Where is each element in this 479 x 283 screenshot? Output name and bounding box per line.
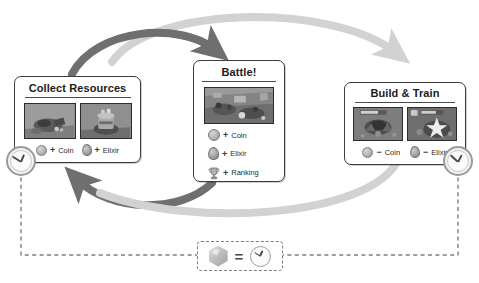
legend-label: Elixir [230, 149, 246, 158]
gem-icon [209, 246, 228, 267]
panel-title: Build & Train [345, 83, 465, 99]
title-divider [25, 97, 131, 98]
legend-label: Coin [231, 131, 246, 140]
building-construction-thumbnail [353, 107, 403, 141]
diagram-canvas: Collect Resources [0, 0, 479, 283]
legend-item: + Elixir [208, 147, 284, 160]
dashed-timer-path-left [21, 170, 198, 255]
timer-clock-left [6, 146, 36, 176]
arrow-collect-to-build [112, 17, 395, 62]
sign: + [223, 168, 228, 178]
legend-item: + Coin [208, 129, 284, 141]
legend-item: − Elixir [410, 146, 448, 158]
elixir-collector-thumbnail [80, 103, 132, 139]
sign: + [50, 145, 55, 155]
legend-label: Coin [58, 146, 73, 155]
elixir-icon [207, 147, 220, 161]
battle-scene-thumbnail [204, 87, 274, 124]
thumbnail-row [194, 87, 284, 124]
legend-item: − Coin [362, 146, 400, 158]
panel-title: Collect Resources [15, 77, 140, 94]
title-divider [355, 102, 455, 103]
clock-icon [250, 246, 271, 267]
sign: + [222, 149, 227, 159]
sign: + [223, 130, 228, 140]
troop-training-thumbnail [407, 107, 457, 141]
timer-clock-right [443, 146, 473, 176]
thumbnail-row [345, 107, 465, 141]
legend-gem-equals-time: = [197, 241, 283, 271]
dashed-timer-path-right [282, 170, 458, 255]
title-divider [202, 81, 276, 82]
trophy-icon [208, 166, 220, 179]
elixir-icon [409, 146, 421, 159]
elixir-icon [81, 144, 93, 157]
gold-mine-thumbnail [24, 103, 76, 139]
thumbnail-row [15, 103, 140, 139]
coin-icon [36, 145, 47, 156]
legend-label: Ranking [231, 168, 259, 177]
legend-label: Coin [385, 148, 400, 157]
legend-label: Elixir [103, 146, 119, 155]
panel-title: Battle! [194, 61, 284, 78]
panel-battle[interactable]: Battle! [193, 60, 285, 182]
panel-collect-resources[interactable]: Collect Resources [14, 76, 141, 163]
coin-icon [208, 129, 220, 141]
equals-operator: = [235, 249, 244, 264]
coin-icon [362, 147, 373, 158]
sign: − [376, 147, 381, 157]
arrow-battle-to-collect [78, 180, 212, 205]
legend-item: + Elixir [82, 144, 120, 156]
sign: − [423, 147, 428, 157]
reward-list: + Coin + Elixir + [194, 124, 284, 179]
legend-item: + Ranking [208, 166, 284, 179]
sign: + [95, 145, 100, 155]
legend-item: + Coin [36, 144, 74, 156]
